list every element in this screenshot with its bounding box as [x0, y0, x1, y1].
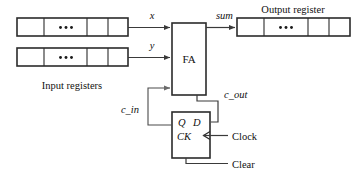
- label-input-registers: Input registers: [42, 80, 102, 91]
- label-ck: CK: [177, 131, 192, 142]
- label-q: Q: [178, 117, 186, 128]
- wire-c-in: [148, 88, 172, 125]
- serial-adder-diagram: x y sum FA Output register Input registe…: [0, 0, 361, 182]
- label-d: D: [192, 117, 201, 128]
- input-register-x: [17, 18, 128, 36]
- label-sum: sum: [216, 10, 233, 21]
- output-register-body: [237, 18, 350, 36]
- label-output-register: Output register: [261, 4, 325, 15]
- label-clear: Clear: [232, 159, 255, 170]
- diagram-canvas: x y sum FA Output register Input registe…: [0, 0, 361, 182]
- label-c-in: c_in: [121, 104, 139, 115]
- label-x: x: [149, 10, 155, 21]
- label-clock: Clock: [232, 131, 258, 142]
- input-register-y: [17, 48, 128, 66]
- label-y: y: [149, 40, 155, 51]
- ellipsis-icon: [59, 56, 73, 59]
- label-c-out: c_out: [224, 89, 248, 100]
- ellipsis-icon: [59, 26, 73, 29]
- ellipsis-icon: [279, 26, 293, 29]
- wire-clear: [186, 158, 228, 164]
- label-fa: FA: [182, 53, 195, 65]
- output-register: [237, 18, 350, 36]
